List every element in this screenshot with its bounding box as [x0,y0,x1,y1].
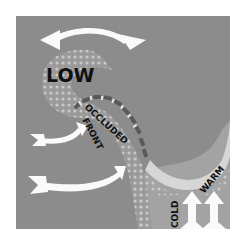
low-label: LOW [46,64,95,86]
occluded-front-diagram: LOW OCCLUDED FRONT COLD WARM [0,0,252,246]
cold-label: COLD [170,201,180,228]
